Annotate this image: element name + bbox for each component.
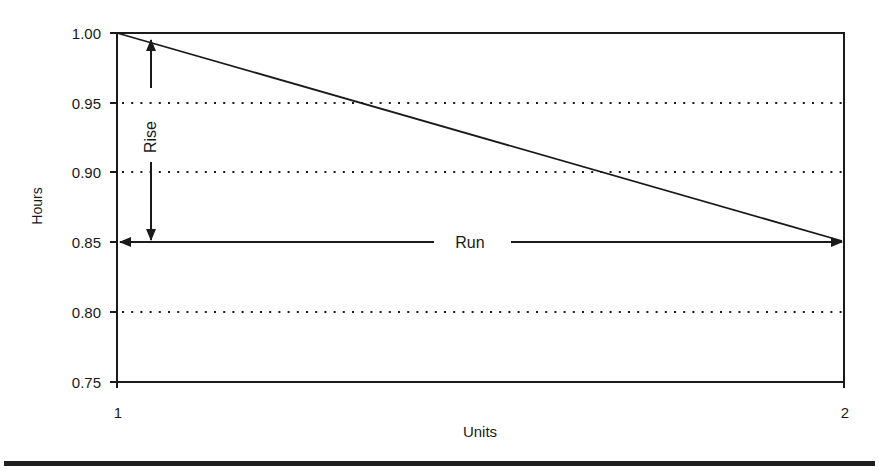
x-tick-labels: 1 2 xyxy=(114,404,849,421)
bottom-rule xyxy=(4,461,875,466)
run-label: Run xyxy=(455,234,484,251)
rise-label: Rise xyxy=(142,121,159,153)
y-tick-label: 1.00 xyxy=(72,25,101,42)
y-tick-label: 0.80 xyxy=(72,304,101,321)
y-tick-label: 0.90 xyxy=(72,164,101,181)
chart: 1.00 0.95 0.90 0.85 0.80 0.75 1 2 Units … xyxy=(0,0,879,471)
y-axis-title: Hours xyxy=(29,187,45,224)
y-tick-label: 0.75 xyxy=(72,374,101,391)
data-line xyxy=(117,33,842,241)
x-tick-label: 1 xyxy=(114,404,122,421)
x-axis-title: Units xyxy=(463,423,497,440)
x-tick-label: 2 xyxy=(841,404,849,421)
gridlines xyxy=(122,103,842,312)
y-tick-label: 0.85 xyxy=(72,234,101,251)
y-tick-label: 0.95 xyxy=(72,95,101,112)
y-tick-labels: 1.00 0.95 0.90 0.85 0.80 0.75 xyxy=(72,25,101,391)
y-tick-marks xyxy=(110,33,117,382)
